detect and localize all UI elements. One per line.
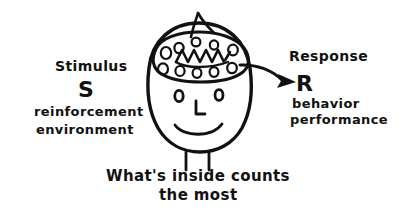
response-detail-performance: performance [290, 112, 388, 127]
diagram-canvas: Stimulus S reinforcement environment Res… [0, 0, 412, 214]
response-detail-behavior: behavior [292, 96, 360, 111]
stimulus-detail-environment: environment [36, 122, 134, 137]
text-layer: Stimulus S reinforcement environment Res… [0, 0, 412, 214]
response-symbol: R [296, 71, 313, 96]
caption-line-1: What's inside counts [106, 167, 290, 185]
response-heading: Response [289, 48, 368, 64]
stimulus-heading: Stimulus [55, 58, 127, 74]
stimulus-symbol: S [78, 77, 94, 102]
stimulus-detail-reinforcement: reinforcement [34, 104, 144, 119]
caption-line-2: the most [159, 186, 237, 204]
